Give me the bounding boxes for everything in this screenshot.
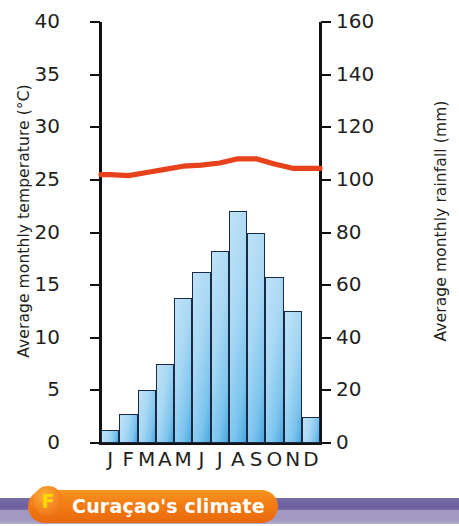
right-tick-label: 160 bbox=[336, 11, 396, 31]
left-tick-label: 35 bbox=[0, 64, 60, 84]
left-tick bbox=[90, 337, 100, 339]
left-tick bbox=[90, 74, 100, 76]
left-tick bbox=[90, 179, 100, 181]
left-tick-label: 30 bbox=[0, 116, 60, 136]
right-tick-label: 40 bbox=[336, 327, 396, 347]
right-tick-label: 0 bbox=[336, 432, 396, 452]
left-tick-label: 15 bbox=[0, 274, 60, 294]
left-tick-label: 10 bbox=[0, 327, 60, 347]
right-tick bbox=[321, 337, 331, 339]
right-tick-label: 120 bbox=[336, 116, 396, 136]
right-tick-label: 20 bbox=[336, 379, 396, 399]
right-tick bbox=[321, 232, 331, 234]
climate-chart-figure: Average monthly temperature (°C) Average… bbox=[0, 0, 459, 484]
right-tick-label: 60 bbox=[336, 274, 396, 294]
temperature-line bbox=[101, 22, 320, 443]
right-tick bbox=[321, 284, 331, 286]
right-tick-label: 140 bbox=[336, 64, 396, 84]
month-axis-labels: JFMAMJJASOND bbox=[101, 449, 320, 475]
left-tick-label: 5 bbox=[0, 379, 60, 399]
left-tick bbox=[90, 442, 100, 444]
left-tick bbox=[90, 389, 100, 391]
left-tick bbox=[90, 21, 100, 23]
caption-title: Curaçao's climate bbox=[72, 491, 265, 521]
left-tick-label: 25 bbox=[0, 169, 60, 189]
left-tick bbox=[90, 284, 100, 286]
right-tick-label: 80 bbox=[336, 222, 396, 242]
right-tick bbox=[321, 442, 331, 444]
caption-badge-letter: F bbox=[42, 492, 55, 511]
caption-badge: F bbox=[33, 486, 63, 516]
right-tick bbox=[321, 389, 331, 391]
right-tick bbox=[321, 74, 331, 76]
left-tick bbox=[90, 126, 100, 128]
figure-caption: F Curaçao's climate bbox=[0, 484, 459, 526]
right-tick bbox=[321, 21, 331, 23]
left-tick bbox=[90, 232, 100, 234]
right-tick bbox=[321, 179, 331, 181]
month-label: D bbox=[298, 449, 324, 470]
left-tick-label: 0 bbox=[0, 432, 60, 452]
right-tick bbox=[321, 126, 331, 128]
left-tick-label: 40 bbox=[0, 11, 60, 31]
left-tick-label: 20 bbox=[0, 222, 60, 242]
right-tick-label: 100 bbox=[336, 169, 396, 189]
right-axis-title: Average monthly rainfall (mm) bbox=[432, 21, 450, 421]
